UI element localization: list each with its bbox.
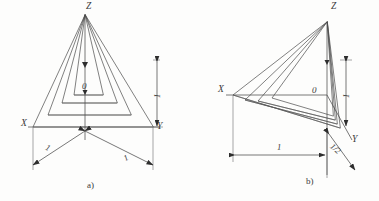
diagram-b-caption: b) [306,176,314,186]
diagram-b-z-ticks [325,60,330,65]
diagram-a-triangle-innermost [74,15,103,95]
diagram-b-chords [233,95,340,128]
diagram-b-triangle-outer [233,22,340,128]
diagram-b-axis-label-x: X [218,85,224,95]
diagram-a-axis-label-x: X [21,119,27,129]
diagram-b-ext-lines [233,95,327,178]
diagram-a-dim-label-z: 1 [153,94,162,98]
diagram-a-caption: a) [87,180,94,190]
diagram-a-triangle-inner [62,15,117,103]
diagram-a-ext-lines [33,127,153,170]
diagram-b-axis-label-y: Y [352,135,357,145]
diagram-b-triangle-middle [245,22,337,124]
diagram-a-graphics [0,0,379,201]
diagram-b-dim-label-z: 1 [342,94,351,98]
diagram-b-origin-label: 0 [312,86,317,95]
diagram-a-axis-label-z: Z [86,2,91,12]
axonometric-figure: Z X Y 0 1 1 1 a) Z X Y 0 1 1/2 1 b) [0,0,379,201]
diagram-b-triangle-innermost [272,22,333,116]
diagram-b-dim-label-x: 1 [277,143,281,152]
diagram-b-axis-label-z: Z [331,2,336,12]
diagram-a-dim-x [33,131,85,165]
diagram-a-chords [48,95,131,115]
diagram-a-dim-y [85,131,153,165]
diagram-a-origin-label: 0 [82,82,87,91]
diagram-a-triangle-middle [48,15,131,115]
diagram-a-axis-label-y: Y [157,122,162,132]
